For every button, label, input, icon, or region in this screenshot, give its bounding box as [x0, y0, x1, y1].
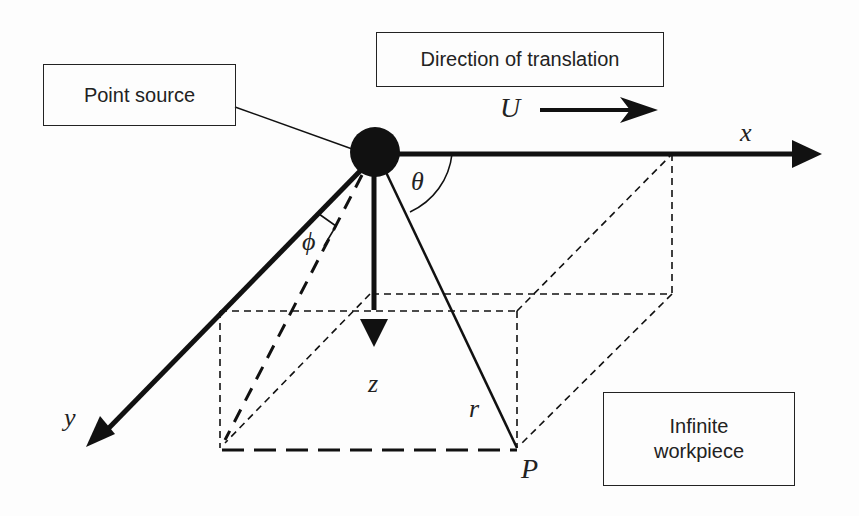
- z-axis-arrow: [360, 170, 388, 347]
- z-axis-label: z: [368, 369, 378, 399]
- point-source-label: Point source: [84, 83, 195, 108]
- point-label: P: [521, 453, 538, 485]
- phi-label: ϕ: [302, 227, 315, 257]
- workpiece-label-line1: Infinite: [670, 414, 729, 439]
- x-axis-label: x: [740, 118, 752, 148]
- direction-label: Direction of translation: [421, 47, 620, 72]
- phi-right-angle: [319, 214, 336, 246]
- point-source-leader: [235, 107, 355, 150]
- radius-line: [384, 168, 517, 448]
- velocity-arrow: [540, 97, 658, 123]
- theta-label: θ: [411, 167, 424, 197]
- workpiece-label-line2: workpiece: [654, 439, 744, 464]
- velocity-label: U: [500, 92, 520, 124]
- point-source-dot: [350, 127, 400, 177]
- y-axis-arrow: [86, 168, 363, 447]
- point-source-label-box: Point source: [43, 64, 236, 126]
- projection-line: [225, 175, 362, 440]
- y-axis-label: y: [64, 403, 76, 433]
- workpiece-label-box: Infinite workpiece: [603, 392, 795, 486]
- x-axis-arrow: [375, 140, 822, 168]
- radius-label: r: [469, 394, 479, 424]
- direction-label-box: Direction of translation: [376, 32, 664, 87]
